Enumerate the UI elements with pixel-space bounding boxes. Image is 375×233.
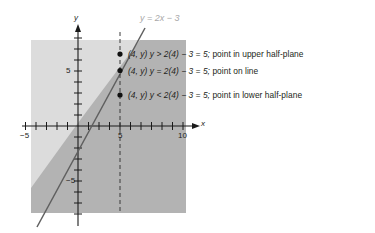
annotation-description-lower: point in lower half-plane: [212, 90, 302, 100]
annotation-point-lower: (4, y): [128, 90, 147, 100]
annotation-relation-lower: y < 2(4) − 3 = 5;: [150, 90, 210, 100]
x-tick-label-10: 10: [178, 131, 187, 140]
coordinate-plane-svg: [0, 0, 375, 233]
x-axis-label: x: [201, 119, 205, 128]
annotation-description-upper: point in upper half-plane: [212, 49, 303, 59]
y-tick-label-5: 5: [66, 66, 70, 75]
x-tick-label-neg5: −5: [20, 131, 29, 140]
line-equation-label: y = 2x − 3: [140, 13, 180, 23]
point-lower-half-plane: [117, 92, 122, 97]
annotation-point-on-line: (4, y): [128, 66, 147, 76]
annotation-relation-upper: y > 2(4) − 3 = 5;: [150, 49, 210, 59]
x-axis-arrowhead: [192, 123, 200, 129]
annotation-upper-half-plane: (4, y) y > 2(4) − 3 = 5; point in upper …: [128, 50, 304, 58]
point-on-line: [117, 68, 122, 73]
annotation-point-upper: (4, y): [128, 49, 147, 59]
x-tick-label-5: 5: [118, 131, 122, 140]
graph-figure: y x −5 5 10 5 −5 y = 2x − 3 (4, y) y > 2…: [0, 0, 375, 233]
point-upper-half-plane: [117, 51, 122, 56]
annotation-description-on-line: point on line: [212, 66, 258, 76]
annotation-on-line: (4, y) y = 2(4) − 3 = 5; point on line: [128, 67, 258, 75]
y-tick-label-neg5: −5: [66, 176, 75, 185]
annotation-relation-on-line: y = 2(4) − 3 = 5;: [150, 66, 210, 76]
y-axis-label: y: [74, 13, 78, 22]
annotation-lower-half-plane: (4, y) y < 2(4) − 3 = 5; point in lower …: [128, 91, 302, 99]
y-axis-arrowhead: [75, 24, 81, 32]
